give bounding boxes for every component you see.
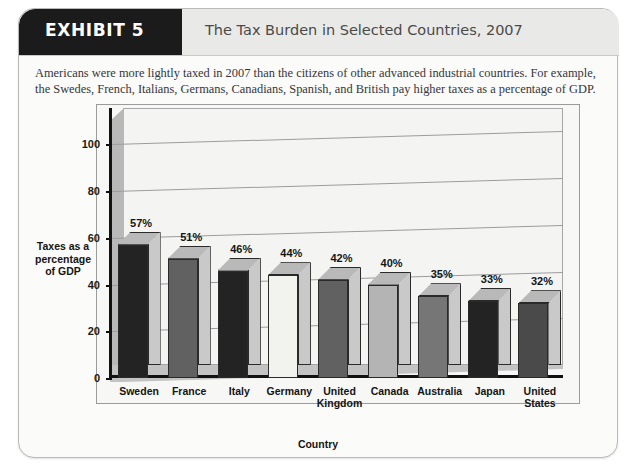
bar-front-face [518,303,548,378]
bar-front-face [218,271,248,378]
bar: 51% [168,246,211,378]
bar-value-label: 57% [120,217,163,229]
bar-side-face [348,267,361,365]
bar: 33% [468,288,511,378]
bar: 35% [418,283,461,378]
exhibit-title: The Tax Burden in Selected Countries, 20… [205,22,523,38]
y-tick-label: 0 [70,372,100,384]
bar-side-face [448,283,461,365]
bar-front-face [418,296,448,378]
bar: 32% [518,290,561,378]
y-tick [106,191,112,193]
y-tick [106,378,112,380]
x-axis-title: Country [0,438,636,450]
bar-front-face [368,285,398,378]
bar: 42% [318,267,361,378]
bar-front-face [268,275,298,378]
bar-side-face [198,246,211,365]
y-tick [106,144,112,146]
category-label: UnitedStates [506,385,574,409]
y-tick-label: 100 [70,138,100,150]
bar: 44% [268,262,311,378]
y-axis-title-line: percentage [28,253,98,266]
bar-chart-plot: 57%51%46%44%42%40%35%33%32% [96,104,580,404]
bar-front-face [468,301,498,378]
category-label-line: Kingdom [306,397,374,409]
bar-value-label: 44% [270,247,313,259]
bar-value-label: 40% [370,257,413,269]
y-tick-label: 80 [70,185,100,197]
y-tick [106,238,112,240]
exhibit-page: EXHIBIT 5 The Tax Burden in Selected Cou… [0,0,636,473]
bar: 40% [368,272,411,378]
y-axis-line [109,108,112,378]
category-label-line: United [506,385,574,397]
y-tick-label: 20 [70,325,100,337]
bar-value-label: 32% [520,275,563,287]
y-axis-title-line: Taxes as a [28,240,98,253]
y-tick-label: 40 [70,279,100,291]
y-tick [106,285,112,287]
bar-front-face [118,245,148,378]
bar: 46% [218,258,261,378]
header-divider [19,55,619,56]
exhibit-header: EXHIBIT 5 The Tax Burden in Selected Cou… [19,9,619,55]
bar-value-label: 33% [470,273,513,285]
bar-side-face [498,288,511,365]
bar-value-label: 46% [220,243,263,255]
bar-value-label: 51% [170,231,213,243]
bar: 57% [118,232,161,378]
y-axis-title: Taxes as apercentageof GDP [28,240,98,278]
exhibit-number-label: EXHIBIT 5 [45,20,144,40]
category-label-line: States [506,397,574,409]
bar-front-face [318,280,348,378]
bar-value-label: 42% [320,252,363,264]
bar-side-face [298,262,311,365]
bar-side-face [398,272,411,365]
bar-value-label: 35% [420,268,463,280]
y-axis-title-line: of GDP [28,265,98,278]
bar-side-face [548,290,561,365]
bar-front-face [168,259,198,378]
exhibit-caption: Americans were more lightly taxed in 200… [35,65,607,97]
bar-side-face [248,258,261,365]
bar-side-face [148,232,161,365]
y-tick [106,331,112,333]
